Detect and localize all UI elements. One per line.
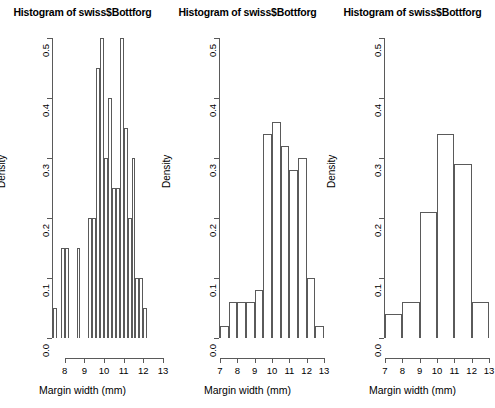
x-tick [472, 358, 473, 363]
histogram-bar [315, 326, 324, 338]
x-tick [65, 358, 66, 363]
x-tick [489, 358, 490, 363]
histogram-bar [263, 134, 272, 338]
panel-2-bars [220, 38, 324, 338]
y-tick-label: 0.4 [372, 98, 383, 124]
panel-2-x-axis-title: Margin width (mm) [165, 384, 330, 396]
y-tick-label: 0.2 [207, 218, 218, 244]
histogram-bar [454, 164, 471, 338]
x-tick-label: 11 [114, 365, 134, 376]
x-tick [163, 358, 164, 363]
histogram-bar [246, 302, 255, 338]
x-tick [104, 358, 105, 363]
x-tick [220, 358, 221, 363]
panel-3-bars [385, 38, 489, 338]
x-axis [65, 358, 163, 359]
histogram-bar [437, 134, 454, 338]
panel-2-y-axis-title: Density [161, 155, 172, 188]
y-tick-label: 0.3 [40, 158, 51, 184]
histogram-bar [53, 308, 57, 338]
x-tick [307, 358, 308, 363]
histogram-bar [385, 314, 402, 338]
y-tick-label: 0.5 [372, 38, 383, 64]
histogram-bar [272, 122, 281, 338]
histogram-panel-1: Histogram of swiss$Bottforg Density Marg… [0, 0, 165, 408]
histogram-bar [143, 308, 147, 338]
panel-3-title: Histogram of swiss$Bottforg [330, 6, 495, 18]
y-tick-label: 0.2 [40, 218, 51, 244]
y-tick-label: 0.0 [207, 338, 218, 364]
histogram-bar [220, 326, 229, 338]
histogram-bar [281, 146, 290, 338]
histogram-bar [237, 302, 246, 338]
histogram-panel-2: Histogram of swiss$Bottforg Density Marg… [165, 0, 330, 408]
histogram-bar [65, 248, 69, 338]
x-tick-label: 12 [133, 365, 153, 376]
y-tick-label: 0.3 [207, 158, 218, 184]
panel-3-x-axis-title: Margin width (mm) [330, 384, 495, 396]
x-tick [84, 358, 85, 363]
y-tick-label: 0.0 [40, 338, 51, 364]
panel-1-plot-area [53, 38, 159, 338]
panel-3-plot-area [385, 38, 489, 338]
x-tick-label: 9 [74, 365, 94, 376]
x-tick [402, 358, 403, 363]
y-tick-label: 0.1 [372, 278, 383, 304]
y-tick-label: 0.1 [207, 278, 218, 304]
y-tick-label: 0.2 [372, 218, 383, 244]
histogram-bar [472, 302, 489, 338]
y-tick-label: 0.1 [40, 278, 51, 304]
histogram-bar [420, 212, 437, 338]
x-tick [420, 358, 421, 363]
histogram-bar [77, 248, 81, 338]
panel-2-title: Histogram of swiss$Bottforg [165, 6, 330, 18]
x-tick [124, 358, 125, 363]
panel-1-x-axis-title: Margin width (mm) [0, 384, 165, 396]
panel-1-title: Histogram of swiss$Bottforg [0, 6, 165, 18]
x-tick [237, 358, 238, 363]
histogram-bar [255, 290, 264, 338]
histogram-bar [307, 278, 316, 338]
y-tick-label: 0.4 [40, 98, 51, 124]
x-tick [437, 358, 438, 363]
x-tick-label: 10 [94, 365, 114, 376]
panel-1-bars [53, 38, 159, 338]
x-tick-label: 8 [55, 365, 75, 376]
y-tick-label: 0.5 [40, 38, 51, 64]
x-tick [385, 358, 386, 363]
histogram-bar [229, 302, 238, 338]
x-tick-label: 13 [479, 365, 495, 376]
histogram-bar [289, 170, 298, 338]
histogram-figure: Histogram of swiss$Bottforg Density Marg… [0, 0, 495, 408]
x-tick [454, 358, 455, 363]
panel-2-plot-area [220, 38, 324, 338]
x-tick [255, 358, 256, 363]
y-tick-label: 0.3 [372, 158, 383, 184]
x-tick [143, 358, 144, 363]
panel-1-y-axis-title: Density [0, 155, 7, 188]
histogram-bar [402, 302, 419, 338]
y-tick-label: 0.4 [207, 98, 218, 124]
histogram-panel-3: Histogram of swiss$Bottforg Density Marg… [330, 0, 495, 408]
x-tick [289, 358, 290, 363]
x-tick [324, 358, 325, 363]
y-tick-label: 0.5 [207, 38, 218, 64]
histogram-bar [298, 158, 307, 338]
panel-3-y-axis-title: Density [326, 155, 337, 188]
x-tick [272, 358, 273, 363]
y-tick-label: 0.0 [372, 338, 383, 364]
